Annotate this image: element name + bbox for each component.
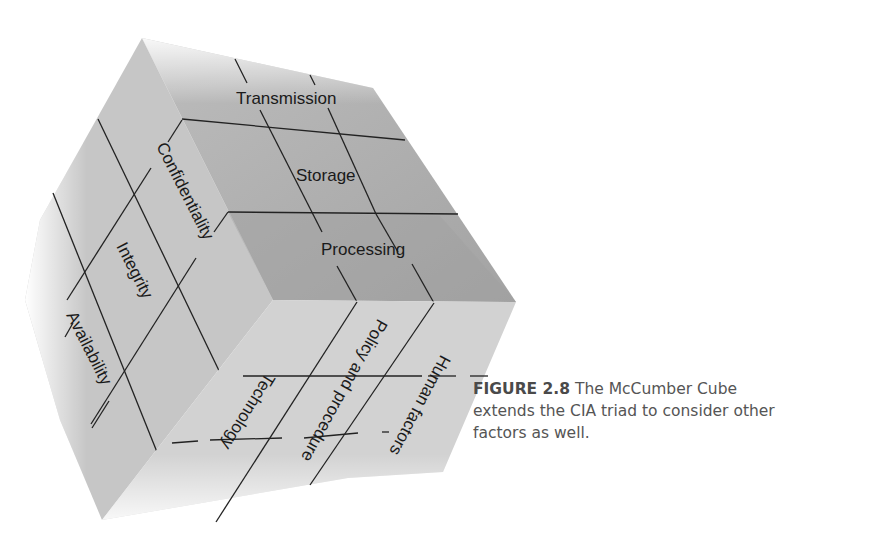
- mccumber-cube-diagram: Transmission Storage Processing Confiden…: [0, 0, 869, 544]
- figure-caption: FIGURE 2.8 The McCumber Cube extends the…: [473, 378, 853, 444]
- label-storage: Storage: [296, 166, 356, 185]
- label-processing: Processing: [321, 240, 405, 259]
- caption-line-1: The McCumber Cube: [570, 380, 737, 398]
- caption-line-3: factors as well.: [473, 422, 853, 444]
- figure-label: FIGURE 2.8: [473, 380, 570, 398]
- label-transmission: Transmission: [236, 89, 336, 108]
- caption-line-2: extends the CIA triad to consider other: [473, 400, 853, 422]
